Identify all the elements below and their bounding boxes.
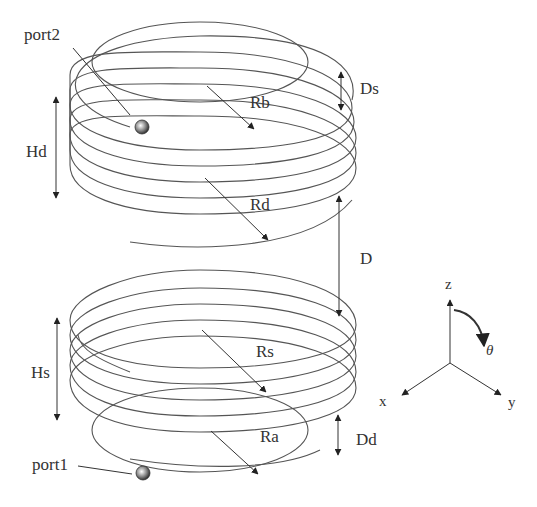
rs-label: Rs — [256, 342, 274, 361]
rb-arrow — [207, 86, 254, 129]
port1-label: port1 — [32, 455, 68, 474]
d-label: D — [360, 249, 372, 268]
port2-marker: port2 — [24, 25, 149, 134]
rd-label: Rd — [250, 195, 270, 214]
x-axis-label: x — [379, 393, 387, 409]
diagram-canvas: port2 port1 Hd Hs Ds D Dd Rb Rd Rs Ra z … — [0, 0, 537, 507]
port2-label: port2 — [24, 25, 60, 44]
z-axis-label: z — [445, 276, 452, 292]
ra-label: Ra — [260, 427, 279, 446]
lower-coil — [70, 270, 356, 472]
hs-label: Hs — [31, 363, 50, 382]
ra-arrow — [211, 431, 258, 474]
ds-label: Ds — [360, 79, 379, 98]
dd-label: Dd — [356, 430, 377, 449]
theta-label: θ — [486, 342, 494, 358]
rb-label: Rb — [250, 93, 270, 112]
upper-coil — [70, 22, 356, 247]
y-axis-label: y — [508, 394, 516, 410]
coordinate-axes: z x y θ — [379, 276, 516, 410]
port1-marker: port1 — [32, 455, 150, 480]
hd-label: Hd — [26, 142, 47, 161]
